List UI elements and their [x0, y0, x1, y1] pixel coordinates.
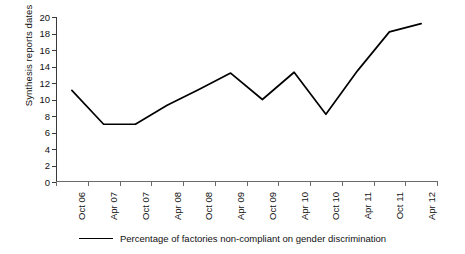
- legend-label: Percentage of factories non-compliant on…: [120, 233, 386, 244]
- x-tick-label: Oct 11: [394, 192, 405, 219]
- x-tick-label: Apr 11: [362, 192, 373, 219]
- x-tick-label: Apr 09: [235, 192, 246, 220]
- line-chart: Synthesis reports dates 2018161412108642…: [0, 0, 465, 254]
- x-tick-label: Apr 08: [172, 192, 183, 220]
- x-tick-label: Oct 09: [267, 192, 278, 220]
- y-tick-label: 20: [28, 11, 50, 24]
- x-tick-mark: [437, 181, 438, 186]
- y-tick-label: 18: [28, 27, 50, 40]
- series-line: [72, 24, 421, 125]
- x-tick-label: Oct 07: [140, 192, 151, 220]
- x-tick-label: Apr 10: [299, 192, 310, 220]
- x-tick-label: Oct 08: [203, 192, 214, 220]
- plot-area: 20181614121086420: [56, 17, 437, 182]
- y-tick-label: 14: [28, 60, 50, 73]
- y-tick-label: 0: [28, 176, 50, 189]
- x-tick-label: Oct 06: [76, 192, 87, 220]
- y-tick-label: 2: [28, 159, 50, 172]
- x-tick-label: Apr 12: [426, 192, 437, 220]
- y-tick-label: 16: [28, 44, 50, 57]
- y-tick-label: 8: [28, 110, 50, 123]
- y-tick-label: 4: [28, 143, 50, 156]
- legend-line-marker: [79, 238, 113, 239]
- y-tick-label: 12: [28, 77, 50, 90]
- chart-legend: Percentage of factories non-compliant on…: [0, 233, 465, 244]
- x-tick-label: Apr 07: [108, 192, 119, 220]
- series-lines: [56, 17, 437, 182]
- y-tick-label: 10: [28, 93, 50, 106]
- y-tick-label: 6: [28, 126, 50, 139]
- x-tick-label: Oct 10: [330, 192, 341, 220]
